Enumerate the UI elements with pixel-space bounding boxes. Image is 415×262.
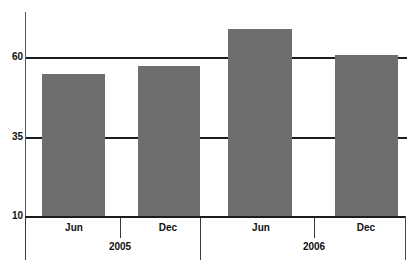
x-group-label-2005: 2005 [82, 241, 158, 253]
separator-tick-left-edge [25, 218, 26, 260]
x-label-2005-jun: Jun [43, 222, 105, 234]
x-label-2005-dec: Dec [137, 222, 199, 234]
separator-tick-2006-inner [314, 218, 315, 238]
bar-2005-jun [42, 74, 105, 217]
y-tick-label-60: 60 [1, 52, 23, 62]
bar-chart: 60 35 10 Jun Dec Jun Dec 2005 2006 [0, 0, 415, 262]
y-tick-label-35: 35 [1, 132, 23, 142]
bar-2005-dec [138, 66, 200, 217]
bar-2006-dec [335, 55, 398, 217]
x-group-label-2006: 2006 [276, 241, 352, 253]
separator-tick-group-boundary [200, 218, 201, 260]
y-tick-35: 35 [0, 132, 23, 142]
separator-tick-2005-inner [120, 218, 121, 238]
y-tick-60: 60 [0, 52, 23, 62]
x-label-2006-jun: Jun [230, 222, 292, 234]
y-tick-10: 10 [0, 211, 23, 221]
y-axis-line [25, 12, 26, 217]
x-label-2006-dec: Dec [335, 222, 397, 234]
y-tick-label-10: 10 [1, 211, 23, 221]
bar-2006-jun [228, 29, 292, 217]
plot-right-border [405, 216, 406, 260]
x-axis-line [25, 216, 406, 218]
